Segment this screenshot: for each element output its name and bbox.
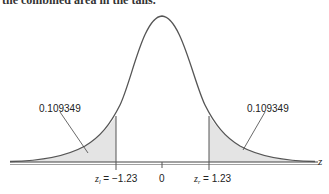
normal-curve-plot	[0, 0, 329, 194]
left-leader-line	[60, 112, 88, 153]
right-tick-value: = 1.23	[200, 173, 231, 184]
right-tick-label: zr = 1.23	[194, 173, 231, 185]
density-curve	[10, 16, 315, 162]
right-area-label: 0.109349	[247, 103, 289, 114]
left-tick-value: = −1.23	[101, 173, 138, 184]
left-area-label: 0.109349	[39, 103, 81, 114]
axis-label-z: z	[318, 155, 322, 167]
left-tick-label: zl = −1.23	[95, 173, 137, 185]
center-tick-label: 0	[159, 173, 165, 184]
right-leader-line	[243, 112, 265, 150]
